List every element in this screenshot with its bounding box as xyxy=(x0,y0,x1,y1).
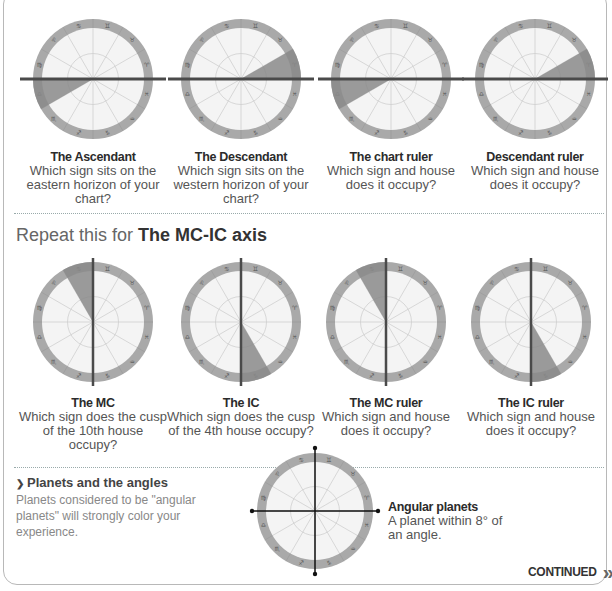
zodiac-sign-glyph: ♋ xyxy=(374,22,379,29)
zodiac-sign-glyph: ♎ xyxy=(479,90,484,97)
bullet-chevron-icon: ❯ xyxy=(16,478,24,489)
zodiac-sign-glyph: ♊ xyxy=(105,265,110,272)
panel-title: Descendant ruler xyxy=(460,150,610,164)
zodiac-sign-glyph: ♈ xyxy=(292,304,298,311)
double-chevron-right-icon: » xyxy=(603,565,608,579)
zodiac-sign-glyph: ♒ xyxy=(423,358,428,365)
zodiac-sign-glyph: ♑ xyxy=(547,129,552,136)
zodiac-sign-glyph: ♈ xyxy=(144,304,150,311)
ic-ruler-wheel: ♈♉♊♋♌♍♎♏♐♑♒♓ xyxy=(456,254,606,390)
zodiac-sign-glyph: ♎ xyxy=(475,333,480,340)
zodiac-sign-glyph: ♉ xyxy=(130,279,135,286)
zodiac-sign-glyph: ♓ xyxy=(144,333,149,340)
chart-ruler-panel: ♈♉♊♋♌♍♎♏♐♑♒♓ The chart ruler Which sign … xyxy=(316,14,466,192)
zodiac-sign-glyph: ♓ xyxy=(144,90,149,97)
zodiac-sign-glyph: ♍ xyxy=(475,304,481,312)
zodiac-sign-glyph: ♒ xyxy=(278,358,283,365)
zodiac-sign-glyph: ♑ xyxy=(403,129,408,136)
zodiac-sign-glyph: ♒ xyxy=(568,358,573,365)
panel-description: Which sign and house does it occupy? xyxy=(311,410,461,438)
zodiac-sign-glyph: ♌ xyxy=(199,36,204,43)
zodiac-sign-glyph: ♒ xyxy=(350,545,355,552)
zodiac-sign-glyph: ♒ xyxy=(428,115,433,122)
zodiac-sign-glyph: ♊ xyxy=(543,265,548,272)
zodiac-sign-glyph: ♈ xyxy=(437,304,443,311)
zodiac-sign-glyph: ♌ xyxy=(51,36,56,43)
zodiac-sign-glyph: ♐ xyxy=(76,372,81,379)
zodiac-sign-glyph: ♒ xyxy=(130,115,135,122)
zodiac-sign-glyph: ♏ xyxy=(51,115,57,122)
zodiac-sign-glyph: ♋ xyxy=(514,265,519,272)
descendant-chart-wheel: ♈♉♊♋♌♍♎♏♐♑♒♓ xyxy=(166,14,316,144)
zodiac-sign-glyph: ♑ xyxy=(326,559,331,566)
dotted-divider xyxy=(14,213,604,214)
zodiac-sign-glyph: ♌ xyxy=(199,279,204,286)
angle-endpoint-dot xyxy=(250,509,254,513)
section-heading: Repeat this for The MC-IC axis xyxy=(16,225,267,246)
zodiac-sign-glyph: ♉ xyxy=(572,36,577,43)
panel-title: The chart ruler xyxy=(316,150,466,164)
zodiac-sign-glyph: ♑ xyxy=(253,129,258,136)
mc-ruler-wheel: ♈♉♊♋♌♍♎♏♐♑♒♓ xyxy=(311,254,461,390)
zodiac-sign-glyph: ♐ xyxy=(518,129,523,136)
ic-chart-wheel: ♈♉♊♋♌♍♎♏♐♑♒♓ xyxy=(166,254,316,390)
zodiac-sign-glyph: ♐ xyxy=(224,372,229,379)
zodiac-sign-glyph: ♉ xyxy=(350,470,355,477)
zodiac-sign-glyph: ♎ xyxy=(185,333,190,340)
chart-ruler-wheel: ♈♉♊♋♌♍♎♏♐♑♒♓ xyxy=(316,14,466,144)
angle-endpoint-dot xyxy=(313,572,317,576)
zodiac-sign-glyph: ♓ xyxy=(437,333,442,340)
zodiac-sign-glyph: ♓ xyxy=(442,90,447,97)
panel-description: Which sign sits on the western horizon o… xyxy=(166,164,316,206)
zodiac-sign-glyph: ♑ xyxy=(105,129,110,136)
zodiac-sign-glyph: ♊ xyxy=(398,265,403,272)
angular-planets-note: Angular planets A planet within 8° of an… xyxy=(388,500,508,542)
zodiac-sign-glyph: ♍ xyxy=(261,494,267,502)
mc-panel: ♈♉♊♋♌♍♎♏♐♑♒♓ The MC Which sign does the … xyxy=(18,254,168,452)
zodiac-sign-glyph: ♈ xyxy=(144,61,150,68)
zodiac-sign-glyph: ♏ xyxy=(349,115,355,122)
panel-description: Which sign sits on the eastern horizon o… xyxy=(18,164,168,206)
panel-title: The Ascendant xyxy=(18,150,168,164)
zodiac-sign-glyph: ♎ xyxy=(330,333,335,340)
zodiac-sign-glyph: ♐ xyxy=(514,372,519,379)
zodiac-sign-glyph: ♌ xyxy=(349,36,354,43)
zodiac-sign-glyph: ♊ xyxy=(253,22,258,29)
zodiac-sign-glyph: ♋ xyxy=(298,456,303,463)
zodiac-sign-glyph: ♉ xyxy=(278,279,283,286)
zodiac-sign-glyph: ♍ xyxy=(37,61,43,69)
ic-ruler-panel: ♈♉♊♋♌♍♎♏♐♑♒♓ The IC ruler Which sign and… xyxy=(456,254,606,438)
zodiac-sign-glyph: ♐ xyxy=(369,372,374,379)
zodiac-sign-glyph: ♊ xyxy=(547,22,552,29)
zodiac-sign-glyph: ♒ xyxy=(572,115,577,122)
angle-endpoint-dot xyxy=(376,509,380,513)
zodiac-sign-glyph: ♏ xyxy=(493,115,499,122)
section-heading-bold: The MC-IC axis xyxy=(138,225,267,245)
zodiac-sign-glyph: ♍ xyxy=(185,61,191,69)
mc-chart-wheel: ♈♉♊♋♌♍♎♏♐♑♒♓ xyxy=(18,254,168,390)
zodiac-sign-glyph: ♓ xyxy=(582,333,587,340)
planets-heading-text: Planets and the angles xyxy=(27,475,168,490)
zodiac-sign-glyph: ♋ xyxy=(224,22,229,29)
zodiac-sign-glyph: ♉ xyxy=(428,36,433,43)
angular-title: Angular planets xyxy=(388,500,508,514)
zodiac-sign-glyph: ♊ xyxy=(326,456,331,463)
panel-description: Which sign and house does it occupy? xyxy=(316,164,466,192)
zodiac-sign-glyph: ♉ xyxy=(423,279,428,286)
zodiac-sign-glyph: ♋ xyxy=(224,265,229,272)
continued-link[interactable]: CONTINUED » xyxy=(528,565,608,579)
zodiac-sign-glyph: ♏ xyxy=(489,358,495,365)
panel-title: The MC ruler xyxy=(311,396,461,410)
zodiac-sign-glyph: ♊ xyxy=(253,265,258,272)
ascendant-panel: ♈♉♊♋♌♍♎♏♐♑♒♓ The Ascendant Which sign si… xyxy=(18,14,168,206)
zodiac-sign-glyph: ♑ xyxy=(105,372,110,379)
zodiac-sign-glyph: ♓ xyxy=(586,90,591,97)
zodiac-sign-glyph: ♓ xyxy=(292,333,297,340)
angle-endpoint-dot xyxy=(313,446,317,450)
zodiac-sign-glyph: ♏ xyxy=(199,115,205,122)
zodiac-sign-glyph: ♍ xyxy=(330,304,336,312)
continued-label: CONTINUED xyxy=(528,565,597,579)
zodiac-sign-glyph: ♏ xyxy=(274,545,280,552)
zodiac-sign-glyph: ♏ xyxy=(344,358,350,365)
panel-title: The Descendant xyxy=(166,150,316,164)
